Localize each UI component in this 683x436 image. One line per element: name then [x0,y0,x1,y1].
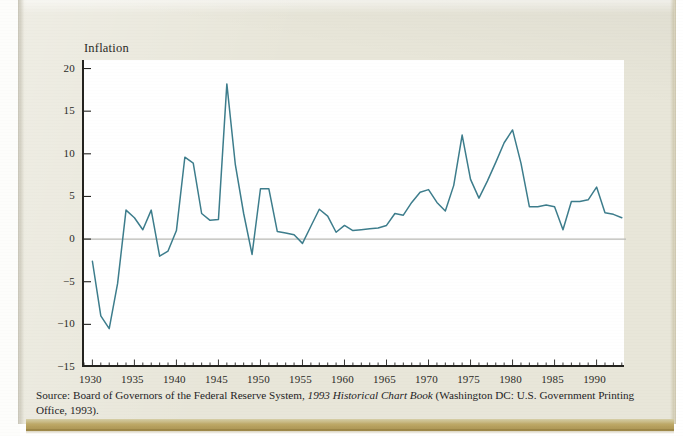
x-tick-label: 1950 [235,373,281,385]
inflation-rate-series [92,84,621,329]
x-tick-label: 1930 [67,373,113,385]
y-tick-label: 20 [41,62,75,74]
source-prefix: Source: Board of Governors of the Federa… [36,389,308,401]
x-tick-label: 1960 [319,373,365,385]
plot-area [82,60,624,367]
x-tick-label: 1955 [277,373,323,385]
x-tick-label: 1965 [362,373,408,385]
x-tick-label: 1935 [109,373,155,385]
y-axis-ticks [84,69,91,367]
y-tick-label: 15 [41,104,75,116]
inflation-line-chart [84,60,626,367]
x-axis-minor-ticks [84,360,622,368]
x-tick-label: 1990 [572,373,618,385]
inflation-rate-figure: Inflation Rate (%) 20151050−5−10−15 1930… [0,0,683,436]
y-tick-label: −15 [41,360,75,372]
y-tick-label: −10 [41,317,75,329]
source-title: 1993 Historical Chart Book [308,389,433,401]
x-tick-label: 1945 [193,373,239,385]
source-note: Source: Board of Governors of the Federa… [36,388,656,417]
x-tick-label: 1940 [151,373,197,385]
y-tick-label: 10 [41,147,75,159]
y-tick-label: 5 [41,189,75,201]
x-tick-label: 1975 [446,373,492,385]
y-axis-title-line-1: Inflation [84,41,130,57]
x-tick-label: 1970 [404,373,450,385]
y-tick-label: −5 [41,275,75,287]
x-tick-label: 1985 [530,373,576,385]
y-tick-label: 0 [41,232,75,244]
x-tick-label: 1980 [488,373,534,385]
